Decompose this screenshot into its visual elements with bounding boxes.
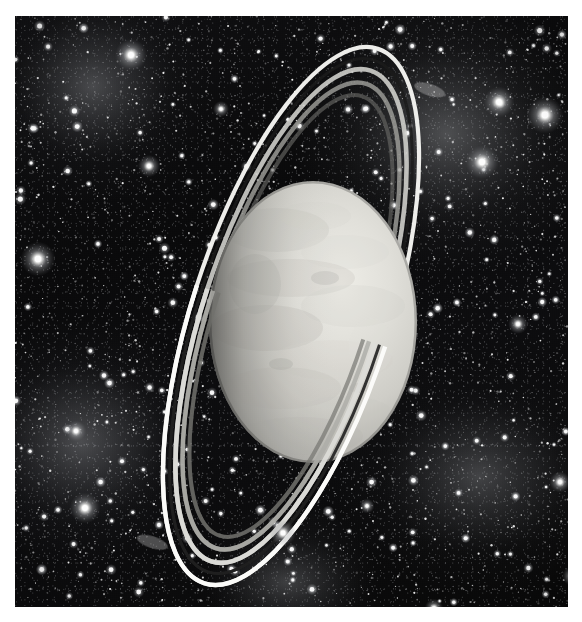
caption-strip <box>0 0 582 14</box>
ringed-planet-photograph <box>15 16 568 607</box>
page-root <box>0 0 582 622</box>
scene-vector-layer <box>15 16 568 607</box>
